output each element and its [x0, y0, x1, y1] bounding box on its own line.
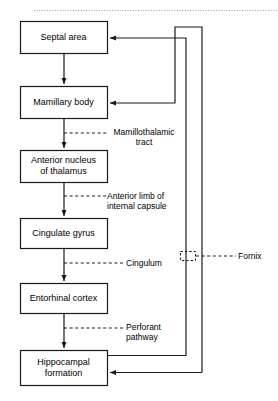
node-label-septal-area: Septal area — [20, 21, 107, 53]
node-label-hippocampal-formation: Hippocampal formation — [20, 350, 107, 385]
edge-label-perforant-pathway: Perforant pathway — [126, 322, 186, 342]
node-label-mamillary-body: Mamillary body — [20, 86, 107, 118]
edge-label-anterior-limb-internal-capsule: Anterior limb of internal capsule — [107, 191, 183, 211]
node-label-anterior-nucleus: Anterior nucleus of thalamus — [20, 150, 107, 182]
edge-label-cingulum: Cingulum — [126, 258, 186, 268]
node-label-entorhinal-cortex: Entorhinal cortex — [20, 283, 107, 313]
node-label-cingulate-gyrus: Cingulate gyrus — [20, 218, 107, 248]
diagram-canvas: Septal area Mamillary body Anterior nucl… — [0, 0, 278, 401]
edge-label-mamillothalamic-tract: Mamillothalamic tract — [108, 127, 180, 147]
edge-label-fornix: Fornix — [238, 251, 278, 261]
